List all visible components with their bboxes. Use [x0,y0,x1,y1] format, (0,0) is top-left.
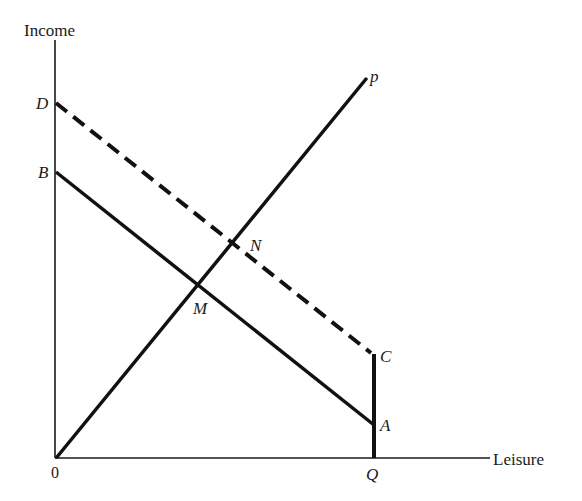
y-axis-label: Income [24,21,75,40]
point-p-label: p [369,67,379,86]
point-n-label: N [249,236,263,255]
budget-line-dc-dashed [56,103,371,353]
x-axis-label: Leisure [493,450,544,469]
point-a-label: A [379,416,391,435]
point-q-label: Q [366,465,378,484]
point-d-label: D [35,94,49,113]
ray-0p [57,79,366,457]
point-m-label: M [192,299,208,318]
income-leisure-diagram: Income Leisure 0 D B C A Q M N p [0,0,582,501]
point-b-label: B [38,163,49,182]
budget-line-ba [56,172,374,425]
point-c-label: C [380,347,392,366]
origin-label: 0 [51,464,59,481]
